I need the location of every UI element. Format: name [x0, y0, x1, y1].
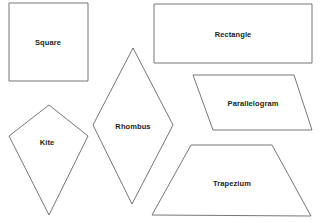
- quadrilaterals-diagram: Square Rectangle Parallelogram Rhombus K…: [0, 0, 320, 223]
- rectangle-label: Rectangle: [215, 30, 252, 39]
- kite-shape: [9, 105, 88, 215]
- trapezium-label: Trapezium: [213, 179, 251, 188]
- kite-label: Kite: [40, 138, 55, 147]
- rhombus-label: Rhombus: [115, 122, 150, 131]
- square-label: Square: [35, 38, 61, 47]
- shapes-layer: [0, 0, 320, 223]
- parallelogram-label: Parallelogram: [228, 99, 279, 108]
